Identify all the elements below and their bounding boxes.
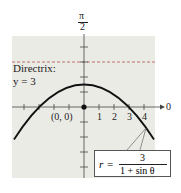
tick-label-2: 2 xyxy=(112,111,117,122)
equation-lhs: r xyxy=(99,158,103,170)
polar-axis-label: 0 xyxy=(166,101,171,112)
directrix-label-line1: Directrix: xyxy=(13,62,56,75)
polar-axis-arrow-icon xyxy=(160,105,165,110)
pi-denominator: 2 xyxy=(80,22,85,32)
tick-label-3: 3 xyxy=(127,111,132,122)
equation-numerator: 3 xyxy=(140,152,145,163)
pi-numerator: π xyxy=(79,11,84,21)
origin-label: (0, 0) xyxy=(51,111,73,122)
equation-box: r = 3 1 + sin θ xyxy=(94,150,171,177)
tick-label-1: 1 xyxy=(97,111,102,122)
origin-point xyxy=(81,104,86,109)
directrix-label-line2: y = 3 xyxy=(13,75,56,88)
directrix-label: Directrix: y = 3 xyxy=(13,62,56,88)
tick-label-4: 4 xyxy=(142,111,147,122)
equation-equals: = xyxy=(107,158,113,170)
equation-denominator: 1 + sin θ xyxy=(120,165,155,176)
